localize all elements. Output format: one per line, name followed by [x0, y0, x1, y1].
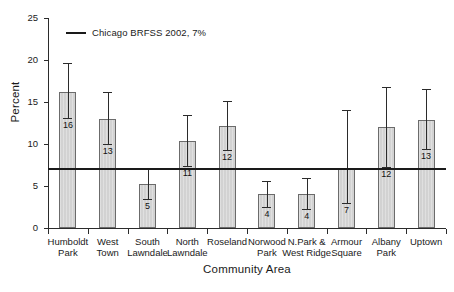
- bar-value-label: 12: [375, 170, 397, 179]
- bar-value-label: 7: [336, 206, 358, 215]
- y-axis-tick-label: 25: [12, 13, 38, 23]
- chart-figure: Percent 0510152025 1613511124471213 Chic…: [0, 0, 454, 292]
- error-bar: [426, 89, 427, 149]
- y-axis-tick-label: 15: [12, 97, 38, 107]
- error-bar-cap-upper: [63, 63, 72, 64]
- x-axis-tick: [167, 229, 168, 234]
- error-bar-cap-upper: [382, 87, 391, 88]
- y-axis-tick-label: 20: [12, 55, 38, 65]
- error-bar: [227, 101, 228, 150]
- error-bar-cap-lower: [302, 209, 311, 210]
- bar-value-label: 5: [137, 202, 159, 211]
- x-axis-tick: [446, 229, 447, 234]
- error-bar-cap-upper: [103, 92, 112, 93]
- error-bar-cap-lower: [262, 207, 271, 208]
- x-axis-category-label: Uptown: [398, 236, 454, 247]
- y-axis-tick: [44, 144, 48, 145]
- error-bar-cap-lower: [422, 149, 431, 150]
- reference-line-7-percent: [48, 168, 446, 170]
- error-bar: [108, 92, 109, 144]
- y-axis-line: [48, 18, 49, 229]
- y-axis-tick-label: 0: [12, 223, 38, 233]
- error-bar: [68, 63, 69, 118]
- x-axis-tick: [287, 229, 288, 234]
- bar-value-label: 13: [415, 152, 437, 161]
- y-axis-tick: [44, 102, 48, 103]
- bar-value-label: 12: [216, 153, 238, 162]
- error-bar: [347, 110, 348, 202]
- x-axis-tick: [207, 229, 208, 234]
- legend-line-icon: [66, 32, 86, 34]
- error-bar-cap-upper: [223, 101, 232, 102]
- bar-value-label: 16: [57, 121, 79, 130]
- x-axis-tick: [406, 229, 407, 234]
- x-axis-tick: [247, 229, 248, 234]
- bar-value-label: 4: [296, 212, 318, 221]
- x-axis-tick: [366, 229, 367, 234]
- error-bar-cap-upper: [183, 115, 192, 116]
- bar-value-label: 13: [97, 147, 119, 156]
- x-axis-title: Community Area: [48, 263, 446, 275]
- x-axis-tick: [48, 229, 49, 234]
- x-axis-tick: [88, 229, 89, 234]
- error-bar-cap-upper: [302, 178, 311, 179]
- error-bar-cap-lower: [342, 203, 351, 204]
- error-bar-cap-lower: [103, 144, 112, 145]
- error-bar-cap-lower: [143, 199, 152, 200]
- y-axis-tick: [44, 186, 48, 187]
- error-bar: [267, 181, 268, 207]
- bar-value-label: 4: [256, 210, 278, 219]
- error-bar: [187, 115, 188, 165]
- x-axis-tick: [128, 229, 129, 234]
- error-bar: [386, 87, 387, 167]
- error-bar-cap-lower: [183, 166, 192, 167]
- error-bar: [148, 169, 149, 198]
- y-axis-tick: [44, 18, 48, 19]
- error-bar-cap-upper: [342, 110, 351, 111]
- x-axis-tick: [327, 229, 328, 234]
- legend: Chicago BRFSS 2002, 7%: [66, 27, 206, 38]
- error-bar: [307, 178, 308, 208]
- y-axis-tick-label: 5: [12, 181, 38, 191]
- error-bar-cap-lower: [223, 150, 232, 151]
- y-axis-tick: [44, 60, 48, 61]
- legend-label: Chicago BRFSS 2002, 7%: [92, 27, 206, 38]
- error-bar-cap-lower: [63, 118, 72, 119]
- error-bar-cap-upper: [422, 89, 431, 90]
- y-axis-tick-label: 10: [12, 139, 38, 149]
- error-bar-cap-upper: [262, 181, 271, 182]
